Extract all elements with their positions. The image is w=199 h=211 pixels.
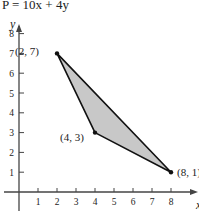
y-tick-label: 2 <box>9 148 14 158</box>
y-tick-label: 5 <box>9 89 14 99</box>
feasible-region <box>57 53 171 172</box>
vertex-label: (8, 1) <box>177 166 199 179</box>
y-tick-label: 3 <box>9 128 14 138</box>
x-tick-label: 3 <box>74 197 79 207</box>
vertex-dot <box>93 130 97 134</box>
x-tick-label: 2 <box>55 197 60 207</box>
y-tick-label: 6 <box>9 69 14 79</box>
y-tick-label: 4 <box>9 108 14 118</box>
x-tick-label: 8 <box>169 197 174 207</box>
vertex-dot <box>169 170 173 174</box>
y-tick-label: 8 <box>9 29 14 39</box>
y-tick-label: 1 <box>9 168 14 178</box>
vertex-dot <box>55 51 59 55</box>
x-tick-label: 5 <box>112 197 117 207</box>
vertex-label: (2, 7) <box>15 45 39 58</box>
triangle-region <box>57 53 171 172</box>
chart: yx1234567812345678 (2, 7)(4, 3)(8, 1) <box>0 0 199 211</box>
vertex-label: (4, 3) <box>60 131 84 144</box>
x-tick-label: 6 <box>131 197 136 207</box>
y-tick-label: 7 <box>9 49 14 59</box>
x-tick-label: 7 <box>150 197 155 207</box>
y-axis-arrow-icon <box>16 24 22 32</box>
x-axis-arrow-icon <box>190 189 198 195</box>
x-tick-label: 4 <box>93 197 98 207</box>
x-tick-label: 1 <box>36 197 41 207</box>
x-axis-label: x <box>195 198 199 211</box>
